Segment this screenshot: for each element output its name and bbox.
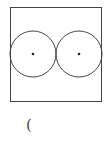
right-circle-center (78, 53, 81, 56)
left-circle-center (32, 53, 35, 56)
caption-label: ( (26, 118, 32, 133)
diagram-canvas (0, 0, 106, 141)
